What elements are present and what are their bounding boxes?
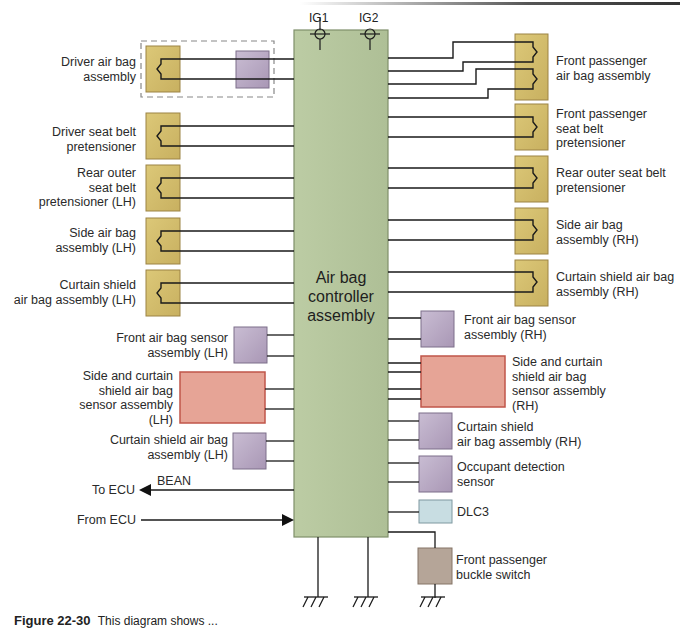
figure-caption-text: This diagram shows ... [98, 614, 218, 628]
label-curtain-shield-rh-sensor: Curtain shieldair bag assembly (RH) [457, 420, 581, 449]
side-curtain-sensor-rh-box [421, 356, 505, 407]
label-curtain-shield-air-bag-assembly-rh: Curtain shield air bagassembly (RH) [556, 270, 674, 299]
label-side-air-bag-assembly-lh: Side air bagassembly (LH) [55, 226, 136, 255]
dlc3-box [419, 500, 452, 523]
label-rear-outer-seat-belt-pretensioner-rh: Rear outer seat beltpretensioner [556, 166, 666, 195]
curtain-shield-lh-sensor-box [233, 433, 266, 469]
buckle-switch-box [418, 548, 452, 584]
label-front-passenger-buckle-switch: Front passengerbuckle switch [456, 553, 547, 582]
label-driver-seat-belt-pretensioner: Driver seat beltpretensioner [52, 125, 136, 154]
label-front-air-bag-sensor-lh: Front air bag sensorassembly (LH) [116, 331, 228, 360]
label-side-curtain-sensor-lh: Side and curtainshield air bagsensor ass… [79, 369, 173, 427]
ig1-label: IG1 [309, 11, 328, 25]
clock-spring [236, 51, 269, 88]
label-front-passenger-air-bag-assembly: Front passengerair bag assembly [556, 54, 651, 83]
side-curtain-sensor-lh-box [180, 372, 265, 423]
from-ecu-label: From ECU [77, 513, 136, 528]
front-air-bag-sensor-lh-box [234, 327, 267, 363]
label-driver-air-bag-assembly: Driver air bagassembly [61, 55, 136, 84]
label-front-air-bag-sensor-rh: Front air bag sensorassembly (RH) [464, 313, 576, 342]
label-dlc3: DLC3 [457, 505, 489, 520]
controller-label: Air bag controller assembly [294, 268, 388, 325]
label-curtain-shield-air-bag-assembly-lh: Curtain shieldair bag assembly (LH) [14, 278, 136, 307]
occupant-detection-sensor-box [419, 456, 452, 492]
figure-number: Figure 22-30 [14, 613, 91, 628]
label-side-curtain-sensor-rh: Side and curtainshield air bagsensor ass… [512, 355, 606, 413]
front-air-bag-sensor-rh-box [421, 311, 454, 347]
ig2-label: IG2 [359, 11, 378, 25]
label-front-passenger-seat-belt-pretensioner: Front passengerseat beltpretensioner [556, 107, 647, 151]
label-occupant-detection-sensor: Occupant detectionsensor [457, 460, 565, 489]
bean-bus-label: BEAN [157, 474, 191, 489]
label-rear-outer-seat-belt-pretensioner-lh: Rear outerseat beltpretensioner (LH) [39, 166, 136, 210]
label-side-air-bag-assembly-rh: Side air bagassembly (RH) [556, 218, 639, 247]
figure-caption: Figure 22-30 This diagram shows ... [14, 613, 218, 628]
curtain-shield-rh-sensor-box [419, 413, 452, 449]
label-curtain-shield-lh-sensor: Curtain shield air bagassembly (LH) [110, 433, 228, 462]
to-ecu-label: To ECU [92, 483, 135, 498]
